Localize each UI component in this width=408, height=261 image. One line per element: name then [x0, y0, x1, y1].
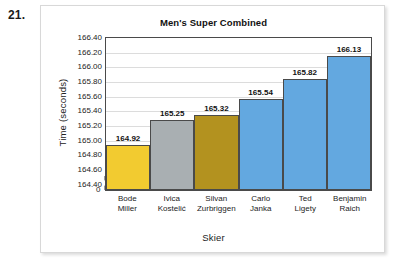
bars-group: 164.92165.25165.32165.54165.82166.13	[106, 38, 371, 190]
y-axis-tick-label: 165.40	[78, 107, 102, 115]
bar[interactable]	[194, 115, 238, 190]
x-axis-category-label-line: Benjamin	[328, 194, 373, 204]
chart-card: Men's Super Combined Time (seconds) 164.…	[40, 5, 385, 253]
x-axis-category-label: TedLigety	[283, 194, 328, 214]
bar-value-label: 165.25	[150, 110, 194, 118]
bar-slot: 164.92	[106, 38, 150, 190]
y-axis-tick-label: 164.60	[78, 166, 102, 174]
y-axis-tick-label: 164.80	[78, 151, 102, 159]
bar-slot: 165.25	[150, 38, 194, 190]
x-axis-category-label: CarloJanka	[239, 194, 284, 214]
y-axis-tick-label: 166.00	[78, 63, 102, 71]
x-axis-category-label: BenjaminRaich	[328, 194, 373, 214]
chart-title: Men's Super Combined	[41, 17, 386, 28]
x-axis-category-label: IvicaKostelić	[150, 194, 195, 214]
bar[interactable]	[150, 120, 194, 190]
x-axis-category-label-line: Kostelić	[150, 204, 195, 214]
bar[interactable]	[283, 79, 327, 190]
y-axis-tick-label: 165.00	[78, 137, 102, 145]
y-axis-tick-label: 165.60	[78, 93, 102, 101]
x-axis-category-label-line: Bode	[105, 194, 150, 204]
y-axis-zero-tick: 0	[96, 186, 100, 194]
x-axis-category-label-line: Raich	[328, 204, 373, 214]
bar-value-label: 166.13	[327, 46, 371, 54]
x-axis-category-labels: BodeMillerIvicaKostelićSilvanZurbriggenC…	[105, 194, 372, 214]
y-axis-tick-label: 165.80	[78, 78, 102, 86]
bar-value-label: 164.92	[106, 135, 150, 143]
bar[interactable]	[239, 99, 283, 190]
bar-value-label: 165.32	[194, 105, 238, 113]
x-axis-category-label-line: Ligety	[283, 204, 328, 214]
x-axis-title: Skier	[41, 232, 386, 243]
x-axis-category-label-line: Carlo	[239, 194, 284, 204]
bar-slot: 166.13	[327, 38, 371, 190]
x-axis-category-label: BodeMiller	[105, 194, 150, 214]
bar-slot: 165.54	[239, 38, 283, 190]
y-axis-tick-label: 166.40	[78, 34, 102, 42]
bar-slot: 165.32	[194, 38, 238, 190]
problem-number: 21.	[8, 8, 25, 22]
bar-value-label: 165.54	[239, 89, 283, 97]
x-axis-category-label-line: Miller	[105, 204, 150, 214]
bar-value-label: 165.82	[283, 69, 327, 77]
y-axis-title: Time (seconds)	[57, 43, 68, 183]
x-axis-category-label-line: Silvan	[194, 194, 239, 204]
bar[interactable]	[106, 145, 150, 190]
bar[interactable]	[327, 56, 371, 190]
bar-slot: 165.82	[283, 38, 327, 190]
x-axis-category-label-line: Ivica	[150, 194, 195, 204]
x-axis-category-label-line: Ted	[283, 194, 328, 204]
x-axis-category-label-line: Zurbriggen	[194, 204, 239, 214]
x-axis-category-label: SilvanZurbriggen	[194, 194, 239, 214]
x-axis-category-label-line: Janka	[239, 204, 284, 214]
plot-area: 164.40164.60164.80165.00165.20165.40165.…	[105, 37, 372, 191]
y-axis-tick-label: 166.20	[78, 49, 102, 57]
y-axis-tick-label: 165.20	[78, 122, 102, 130]
